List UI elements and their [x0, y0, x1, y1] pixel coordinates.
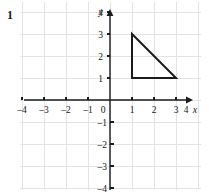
y-tick-label-2: 2	[98, 52, 103, 62]
y-tick-label-3: 3	[98, 30, 103, 40]
y-tick-label--3: –3	[97, 162, 108, 172]
coordinate-grid-figure: 1	[0, 0, 209, 192]
x-tick-label-1: 1	[130, 105, 135, 115]
y-tick-label--2: –2	[97, 140, 108, 150]
origin-label: 0	[101, 105, 106, 115]
y-tick-label-1: 1	[98, 74, 103, 84]
x-tick-label-3: 3	[174, 105, 179, 115]
y-tick-label--1: –1	[97, 118, 108, 128]
x-tick-label--4: –4	[16, 105, 27, 115]
coordinate-plane-svg: –4 –3 –2 –1 0 1 2 3 4 4 3 2 1 –1 –2 –3 –…	[0, 0, 209, 192]
x-tick-label--3: –3	[38, 105, 49, 115]
x-tick-label--1: –1	[82, 105, 93, 115]
x-axis-label: x	[192, 104, 198, 115]
x-tick-label-4: 4	[184, 105, 189, 115]
x-tick-label-2: 2	[152, 105, 157, 115]
y-axis-label: y	[98, 6, 104, 17]
x-axis-arrow-icon	[186, 97, 193, 104]
x-tick-label--2: –2	[60, 105, 71, 115]
y-tick-label--4: –4	[97, 184, 108, 193]
